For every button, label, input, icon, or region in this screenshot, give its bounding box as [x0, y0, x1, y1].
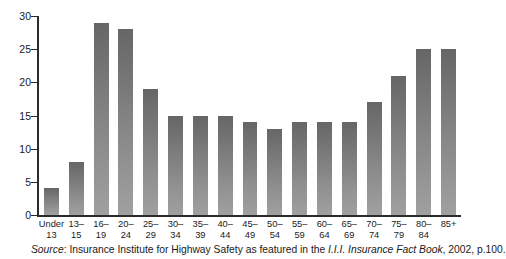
source-text-before: Insurance Institute for Highway Safety a… [69, 244, 328, 255]
y-axis-tick [31, 149, 39, 150]
bar [391, 76, 406, 215]
y-axis-tick-label: 0 [0, 210, 31, 220]
source-book-title: I.I.I. Insurance Fact Book [328, 244, 442, 255]
bar-column [143, 16, 158, 215]
bar [143, 89, 158, 215]
bar [168, 116, 183, 216]
y-axis-tick [31, 182, 39, 183]
y-axis-tick [31, 82, 39, 83]
bar [292, 122, 307, 215]
bar-column [44, 16, 59, 215]
bar-column [267, 16, 282, 215]
bar-series [39, 16, 461, 215]
bar-column [118, 16, 133, 215]
x-axis-label-line1: 85+ [431, 219, 467, 230]
bar [416, 49, 431, 215]
bar [243, 122, 258, 215]
y-axis-tick-label: 20 [0, 77, 31, 87]
source-text-after: , 2002, p.100. [443, 244, 506, 255]
y-axis-tick-label-text: 0 [5, 210, 31, 220]
bar-column [168, 16, 183, 215]
y-axis-tick-label: 15 [0, 111, 31, 121]
bar-column [218, 16, 233, 215]
bar-column [391, 16, 406, 215]
bar [218, 116, 233, 216]
bar [317, 122, 332, 215]
y-axis-tick-label-text: 5 [5, 177, 31, 187]
bar [94, 23, 109, 215]
y-axis-tick-label-text: 15 [5, 111, 31, 121]
bar-column [367, 16, 382, 215]
source-note: Source: Insurance Institute for Highway … [31, 243, 461, 256]
bar-column [292, 16, 307, 215]
bar-column [243, 16, 258, 215]
bar-column [416, 16, 431, 215]
bar [118, 29, 133, 215]
y-axis-tick [31, 49, 39, 50]
y-axis-tick-label: 10 [0, 144, 31, 154]
y-axis-tick-label: 30 [0, 11, 31, 21]
bar [367, 102, 382, 215]
bar-column [193, 16, 208, 215]
y-axis-tick [31, 16, 39, 17]
y-axis-tick-label-text: 25 [5, 44, 31, 54]
x-axis-labels: Under1313–1516–1920–2425–2930–3435–3940–… [39, 219, 461, 245]
x-axis-label-line2 [431, 230, 467, 241]
y-axis-tick-label: 25 [0, 44, 31, 54]
y-axis-tick-label-text: 30 [5, 11, 31, 21]
bar [193, 116, 208, 216]
plot-area: 051015202530 Under1313–1516–1920–2425–29… [0, 0, 467, 222]
bar [342, 122, 357, 215]
bar-column [441, 16, 456, 215]
bar-column [317, 16, 332, 215]
source-label: Source [31, 244, 64, 255]
bar [267, 129, 282, 215]
y-axis-tick-label-text: 10 [5, 144, 31, 154]
y-axis-tick [31, 215, 39, 216]
bar [69, 162, 84, 215]
bar-column [69, 16, 84, 215]
bar [44, 188, 59, 215]
y-axis-tick-label: 5 [0, 177, 31, 187]
bar-column [94, 16, 109, 215]
x-axis-line [37, 215, 461, 217]
bar [441, 49, 456, 215]
x-axis-label: 85+ [431, 219, 467, 241]
y-axis-tick [31, 116, 39, 117]
y-axis-tick-label-text: 20 [5, 77, 31, 87]
bar-column [342, 16, 357, 215]
